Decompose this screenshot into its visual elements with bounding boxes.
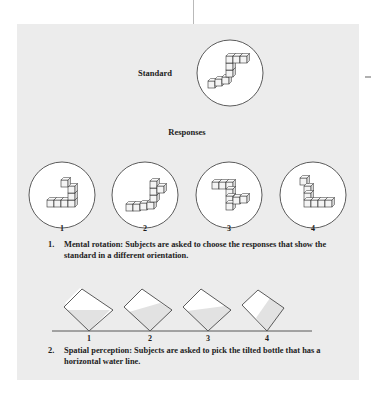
- bottle-3: [183, 289, 231, 331]
- bottle-1: [64, 288, 113, 331]
- bottle-number-2: 2: [140, 334, 160, 343]
- response-number-4: 4: [303, 224, 323, 233]
- figure-graphics: [0, 0, 371, 393]
- response-figure-4: [280, 162, 346, 228]
- caption-number: 2.: [48, 346, 54, 357]
- response-figure-1: [29, 162, 95, 228]
- response-figure-3: [196, 162, 262, 228]
- caption-number: 1.: [48, 240, 54, 251]
- bottle-2: [124, 289, 172, 331]
- response-number-1: 1: [52, 224, 72, 233]
- bottle-number-4: 4: [257, 334, 277, 343]
- standard-figure: [197, 40, 263, 106]
- caption-text: Spatial perception: Subjects are asked t…: [50, 346, 340, 367]
- response-number-2: 2: [135, 224, 155, 233]
- bottle-number-1: 1: [79, 334, 99, 343]
- bottle-number-3: 3: [198, 334, 218, 343]
- caption-text: Mental rotation: Subjects are asked to c…: [50, 240, 340, 261]
- standard-label: Standard: [125, 68, 185, 78]
- response-figure-2: [112, 162, 178, 228]
- response-number-3: 3: [219, 224, 239, 233]
- caption-spatial-perception: 2. Spatial perception: Subjects are aske…: [50, 346, 340, 367]
- bottle-4: [242, 290, 284, 331]
- caption-mental-rotation: 1. Mental rotation: Subjects are asked t…: [50, 240, 340, 261]
- responses-label: Responses: [147, 127, 227, 137]
